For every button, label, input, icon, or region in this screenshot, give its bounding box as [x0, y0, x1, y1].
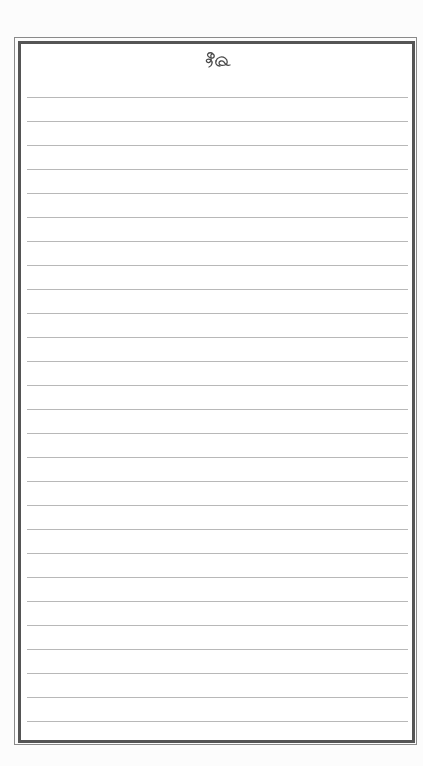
ruled-line — [27, 217, 408, 218]
ruled-line — [27, 169, 408, 170]
ruled-line — [27, 601, 408, 602]
notepaper-page — [0, 0, 423, 766]
ruled-line — [27, 289, 408, 290]
ruled-line — [27, 145, 408, 146]
ruled-line — [27, 97, 408, 98]
ruled-line — [27, 553, 408, 554]
ruled-line — [27, 505, 408, 506]
ruled-line — [27, 385, 408, 386]
ruled-line — [27, 409, 408, 410]
ruled-line — [27, 673, 408, 674]
ruled-line — [27, 193, 408, 194]
ruled-line — [27, 649, 408, 650]
ruled-line — [27, 121, 408, 122]
ruled-line — [27, 313, 408, 314]
ruled-line — [27, 337, 408, 338]
ruled-line — [27, 529, 408, 530]
inner-border-frame — [18, 41, 415, 743]
ruled-line — [27, 481, 408, 482]
ruled-line — [27, 697, 408, 698]
ruled-line — [27, 433, 408, 434]
flourish-ornament-icon — [203, 49, 233, 71]
ruled-line — [27, 265, 408, 266]
ruled-line — [27, 241, 408, 242]
ruled-line — [27, 457, 408, 458]
ruled-line — [27, 721, 408, 722]
ruled-line — [27, 625, 408, 626]
ruled-line — [27, 361, 408, 362]
ruled-line — [27, 577, 408, 578]
